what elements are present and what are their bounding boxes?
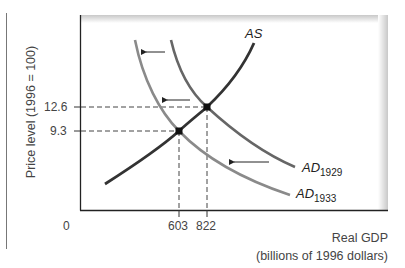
x-tick-label-822: 822 (196, 219, 216, 233)
x-tick-label-603: 603 (168, 219, 188, 233)
ad1933-label-sub: 1933 (314, 193, 336, 204)
ad1929-label: AD1929 (302, 160, 342, 178)
x-axis-label: Real GDP (billions of 1996 dollars) (256, 229, 388, 265)
ad1933-curve (135, 40, 290, 195)
ad1933-label-main: AD (296, 186, 314, 201)
y-tick-label-9-3: 9.3 (50, 124, 67, 138)
equilibrium-point-1933 (176, 128, 183, 135)
ad1929-label-main: AD (302, 160, 320, 175)
origin-label: 0 (63, 219, 70, 233)
ad1929-curve (171, 40, 295, 167)
ad1933-label: AD1933 (296, 186, 336, 204)
equilibrium-point-1929 (204, 104, 211, 111)
frame-right-shade (378, 15, 388, 210)
ad1929-label-sub: 1929 (320, 167, 342, 178)
as-label: AS (245, 26, 262, 41)
x-axis-units: (billions of 1996 dollars) (256, 247, 388, 265)
y-axis-label: Price level (1996 = 100) (24, 46, 38, 178)
frame-top-shade (81, 15, 388, 23)
x-axis-title: Real GDP (256, 229, 388, 247)
y-tick-label-12-6: 12.6 (44, 100, 67, 114)
